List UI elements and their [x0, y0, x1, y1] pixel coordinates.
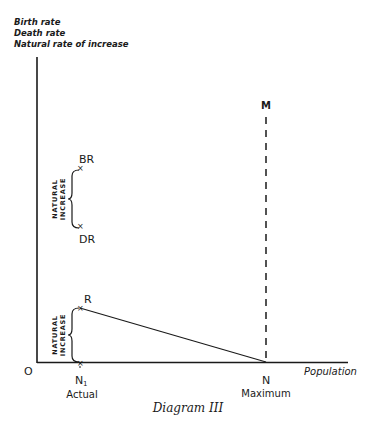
- x-tick-label-maximum: Maximum: [241, 388, 290, 399]
- point-label-r: R: [84, 293, 92, 306]
- y-label-death-rate: Death rate: [14, 28, 66, 38]
- brace-lower: [68, 308, 79, 362]
- y-label-birth-rate: Birth rate: [14, 17, 61, 27]
- svg-text:INCREASE: INCREASE: [59, 314, 67, 357]
- x-tick-label-actual: Actual: [66, 389, 97, 400]
- dr-marker: ×: [77, 222, 84, 231]
- origin-label: O: [24, 365, 33, 378]
- point-label-n: N: [262, 374, 270, 387]
- x-axis-label: Population: [304, 366, 357, 377]
- point-label-n1: N: [75, 374, 83, 387]
- point-label-m: M: [261, 100, 271, 111]
- brace-label-lower: NATURAL INCREASE: [51, 314, 67, 357]
- svg-text:INCREASE: INCREASE: [59, 178, 67, 221]
- point-label-dr: DR: [79, 233, 95, 246]
- br-marker: ×: [77, 164, 84, 173]
- diagram-canvas: Birth rate Death rate Natural rate of in…: [0, 0, 374, 432]
- diagram-caption: Diagram III: [152, 401, 224, 415]
- svg-text:NATURAL: NATURAL: [51, 315, 59, 354]
- svg-text:NATURAL: NATURAL: [51, 179, 59, 218]
- natural-increase-line: [80, 308, 266, 362]
- y-label-natural-rate: Natural rate of increase: [14, 39, 129, 49]
- brace-label-upper: NATURAL INCREASE: [51, 178, 67, 221]
- point-label-n1-subscript: 1: [83, 380, 87, 388]
- brace-upper: [68, 170, 79, 228]
